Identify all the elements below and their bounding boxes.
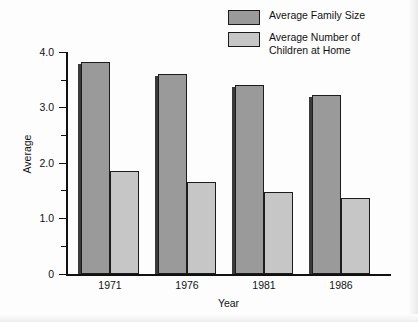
y-tick-minor-3-5 xyxy=(61,80,67,81)
bar-1971-average-children-at-home xyxy=(110,171,139,274)
y-tick-label-3: 3.0 xyxy=(20,101,54,113)
x-axis-line xyxy=(66,274,391,276)
y-tick-label-1: 1.0 xyxy=(20,212,54,224)
y-tick-3 xyxy=(59,107,67,108)
y-tick-label-4: 4.0 xyxy=(20,46,54,58)
bar-1976-average-children-at-home xyxy=(187,182,216,274)
x-tick-label-1981: 1981 xyxy=(229,279,299,291)
bar-1981-average-children-at-home xyxy=(264,192,293,274)
bar-1971-average-family-size xyxy=(81,62,110,274)
bar-1986-average-family-size xyxy=(312,95,341,274)
x-axis-title: Year xyxy=(66,297,391,309)
y-tick-minor-1-5 xyxy=(61,190,67,191)
bar-1986-average-children-at-home xyxy=(341,198,370,274)
y-tick-minor-2-5 xyxy=(61,135,67,136)
bar-1981-average-family-size xyxy=(235,85,264,274)
y-tick-minor-0-5 xyxy=(61,246,67,247)
bar-1976-average-family-size xyxy=(158,74,187,274)
x-tick-label-1976: 1976 xyxy=(152,279,222,291)
y-tick-1 xyxy=(59,218,67,219)
y-tick-4 xyxy=(59,52,67,53)
y-tick-label-0: 0 xyxy=(20,268,54,280)
plot-area: 4.0 3.0 2.0 1.0 0 Average Year 1971 1976… xyxy=(0,0,418,322)
y-tick-0 xyxy=(59,274,67,275)
x-tick-label-1986: 1986 xyxy=(306,279,376,291)
y-axis-title: Average xyxy=(21,119,33,189)
x-tick-label-1971: 1971 xyxy=(75,279,145,291)
chart-page: Average Family Size Average Number of Ch… xyxy=(0,0,418,322)
y-tick-2 xyxy=(59,163,67,164)
